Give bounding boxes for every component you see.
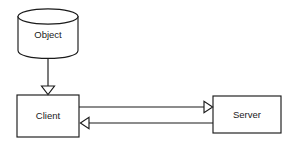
arrowhead-left-icon (80, 117, 89, 128)
node-client-label: Client (36, 110, 61, 121)
cylinder-top-ellipse (18, 9, 78, 24)
node-object[interactable]: Object (18, 9, 78, 59)
diagram-canvas: Object Client Server (0, 0, 295, 146)
node-client[interactable]: Client (17, 95, 79, 137)
diagram-svg: Object Client Server (0, 0, 295, 146)
node-server-label: Server (233, 109, 261, 120)
connection-server-to-client[interactable] (80, 117, 213, 128)
node-object-label: Object (34, 29, 62, 40)
connection-client-to-server[interactable] (79, 101, 213, 112)
connection-object-to-client[interactable] (42, 58, 55, 94)
node-server[interactable]: Server (213, 96, 281, 133)
arrowhead-right-icon (204, 101, 213, 112)
arrowhead-down-icon (42, 86, 55, 95)
